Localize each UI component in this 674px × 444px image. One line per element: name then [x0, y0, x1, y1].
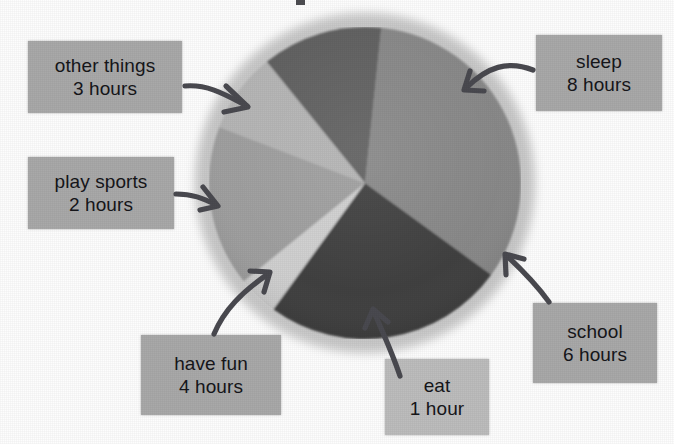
callout-play-sports-line1: play sports [55, 170, 148, 193]
cropped-title-fragment [296, 0, 305, 5]
callout-have-fun[interactable]: have fun 4 hours [141, 335, 281, 415]
callout-other-things-line2: 3 hours [73, 77, 137, 100]
pie-chart [209, 27, 521, 339]
callout-other-things-line1: other things [55, 54, 156, 77]
pie-shading-overlay [209, 27, 521, 339]
callout-school-line1: school [567, 320, 623, 343]
callout-school[interactable]: school 6 hours [533, 303, 657, 383]
callout-sleep[interactable]: sleep 8 hours [536, 35, 662, 111]
callout-school-line2: 6 hours [563, 343, 627, 366]
pie-chart-page: other things 3 hours play sports 2 hours… [0, 0, 674, 444]
callout-play-sports[interactable]: play sports 2 hours [28, 157, 174, 229]
callout-eat[interactable]: eat 1 hour [385, 359, 489, 435]
callout-other-things[interactable]: other things 3 hours [28, 41, 182, 113]
callout-eat-line2: 1 hour [410, 397, 464, 420]
callout-eat-line1: eat [424, 374, 451, 397]
pie-slices [209, 27, 521, 339]
callout-sleep-line2: 8 hours [567, 73, 631, 96]
callout-have-fun-line1: have fun [174, 352, 248, 375]
callout-play-sports-line2: 2 hours [69, 193, 133, 216]
callout-have-fun-line2: 4 hours [179, 375, 243, 398]
callout-sleep-line1: sleep [576, 50, 622, 73]
